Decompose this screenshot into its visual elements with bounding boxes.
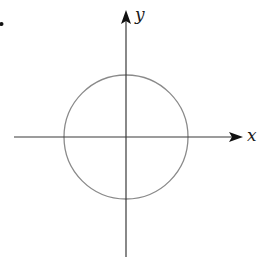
- diagram-canvas: y x: [0, 0, 273, 259]
- coordinate-diagram: [0, 0, 273, 259]
- marker-dot: [0, 22, 4, 26]
- x-axis-label: x: [247, 127, 257, 144]
- y-axis-label: y: [135, 6, 145, 23]
